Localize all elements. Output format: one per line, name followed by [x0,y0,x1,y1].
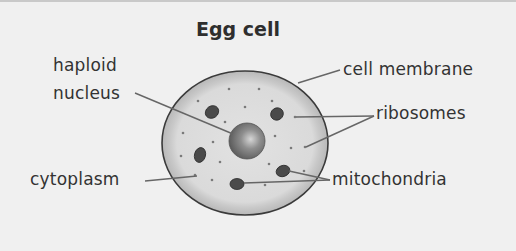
label-nucleus: nucleus [53,85,120,102]
label-ribosomes: ribosomes [376,105,466,122]
haploid-nucleus [229,123,265,159]
membrane-leader [298,70,340,83]
label-mitochondria: mitochondria [332,171,447,188]
egg-cell-diagram [0,0,516,251]
label-cell-membrane: cell membrane [343,61,473,78]
label-haploid: haploid [53,57,117,74]
ribosome-leader-1 [296,116,374,117]
label-cytoplasm: cytoplasm [30,171,120,188]
